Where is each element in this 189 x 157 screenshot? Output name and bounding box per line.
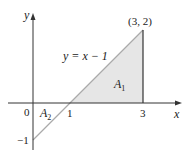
x-tick-3-label: 3 [140, 107, 146, 119]
line-equation-label: y = x − 1 [62, 49, 108, 63]
x-tick-1-label: 1 [67, 107, 73, 119]
y-axis-arrow-icon [31, 13, 36, 20]
x-axis-label: x [173, 107, 180, 121]
origin-label: 0 [24, 106, 30, 118]
graph-diagram: y x 0 1 3 −1 (3, 2) y = x − 1 A1 A2 [0, 0, 189, 157]
region-a2-label: A2 [39, 106, 51, 122]
x-axis-arrow-icon [175, 101, 182, 106]
y-axis-label: y [23, 8, 30, 22]
point-label: (3, 2) [128, 15, 152, 28]
y-tick-neg1-label: −1 [17, 134, 29, 146]
